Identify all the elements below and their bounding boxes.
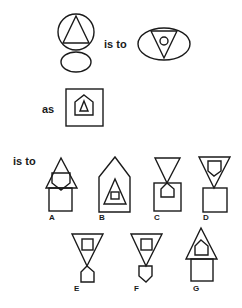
connector-as: as [42,103,54,115]
option-e-figure[interactable] [72,234,103,282]
connector-is-to-1: is to [104,38,127,50]
option-g-label[interactable]: G [193,284,199,293]
option-b-label[interactable]: B [99,213,105,222]
option-b-figure[interactable] [99,157,130,212]
premise-figure-2 [138,28,190,60]
option-a-figure[interactable] [46,158,77,211]
option-d-label[interactable]: D [203,213,209,222]
option-e-label[interactable]: E [74,284,79,293]
premise-figure-3 [66,89,103,126]
premise-figure-1 [58,14,94,72]
option-a-label[interactable]: A [49,213,55,222]
option-f-label[interactable]: F [134,284,139,293]
option-c-label[interactable]: C [154,213,160,222]
option-c-figure[interactable] [154,158,181,211]
connector-is-to-2: is to [13,155,36,167]
option-d-figure[interactable] [199,157,230,212]
option-f-figure[interactable] [131,234,162,282]
option-g-figure[interactable] [186,228,217,281]
